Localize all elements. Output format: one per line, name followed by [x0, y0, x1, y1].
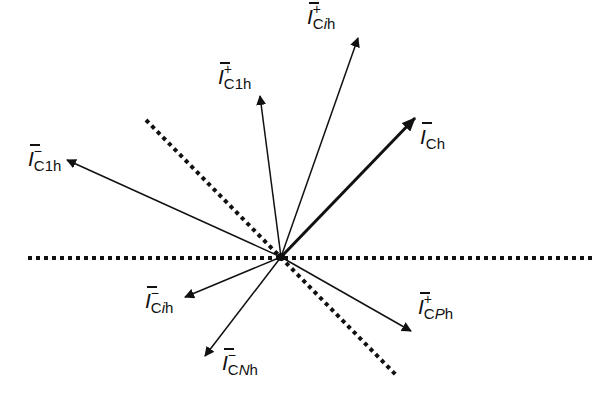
- phasor-subscript: CNh: [228, 362, 258, 377]
- phasor-superscript: −: [151, 286, 159, 300]
- phasor-subscript: CPh: [424, 306, 453, 321]
- phasor-arrow-i-ch: [281, 118, 415, 257]
- phasor-superscript: −: [34, 144, 42, 158]
- phasor-subscript: C1h: [34, 158, 62, 173]
- phasor-arrow-i-c1h-minus: [67, 160, 281, 257]
- phasor-label-i-ch: ICh: [420, 126, 445, 152]
- phasor-arrow-i-cih-plus: [281, 38, 358, 257]
- phasor-arrow-i-cnh-minus: [205, 257, 281, 356]
- phasor-arrow-i-cih-minus: [185, 257, 281, 297]
- phasor-arrow-i-cph-plus: [281, 257, 411, 331]
- phasor-label-i-c1h-plus: I+C1h: [218, 66, 251, 92]
- overbar: [422, 122, 432, 124]
- phasor-subscript: Cih: [313, 16, 336, 31]
- diagonal-reference-line: [146, 120, 397, 376]
- phasor-label-i-cph-plus: I+CPh: [418, 296, 453, 322]
- phasor-label-i-c1h-minus: I−C1h: [28, 148, 61, 174]
- phasor-subscript: Cih: [151, 300, 174, 315]
- phasor-label-i-cih-plus: I+Cih: [307, 6, 335, 32]
- phasor-label-i-cih-minus: I−Cih: [145, 290, 173, 316]
- phasor-diagram: [0, 0, 616, 401]
- phasor-subscript: Ch: [426, 136, 445, 151]
- phasor-superscript: +: [313, 2, 321, 16]
- phasor-superscript: +: [224, 62, 232, 76]
- origin-point: [277, 253, 285, 261]
- phasor-arrow-i-c1h-plus: [260, 96, 281, 257]
- phasor-superscript: +: [424, 292, 432, 306]
- phasor-superscript: −: [228, 348, 236, 362]
- phasor-label-i-cnh-minus: I−CNh: [222, 352, 258, 378]
- phasor-subscript: C1h: [224, 76, 252, 91]
